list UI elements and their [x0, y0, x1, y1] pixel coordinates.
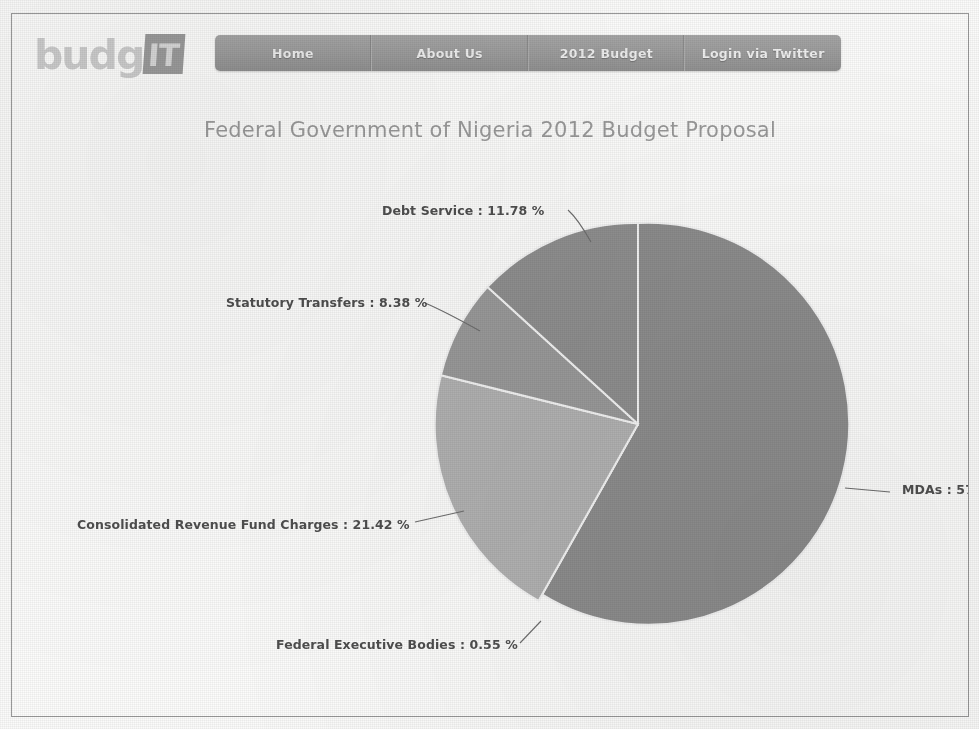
pie-label-statutory-transfers: Statutory Transfers : 8.38 % — [226, 295, 427, 310]
pie-label-federal-executive-bodies: Federal Executive Bodies : 0.55 % — [276, 637, 518, 652]
pie-label-debt-service: Debt Service : 11.78 % — [382, 203, 544, 218]
pie-label-mdas: MDAs : 57 — [902, 482, 969, 497]
page-frame: budgIT Home About Us 2012 Budget Login v… — [11, 13, 969, 717]
leader-line-federal-executive-bodies — [520, 621, 541, 643]
pie-chart-container: Federal Government of Nigeria 2012 Budge… — [12, 14, 968, 716]
pie-label-consolidated-revenue-fund-charges: Consolidated Revenue Fund Charges : 21.4… — [77, 517, 410, 532]
leader-line-mdas — [845, 488, 890, 492]
pie-chart-svg — [12, 14, 968, 716]
